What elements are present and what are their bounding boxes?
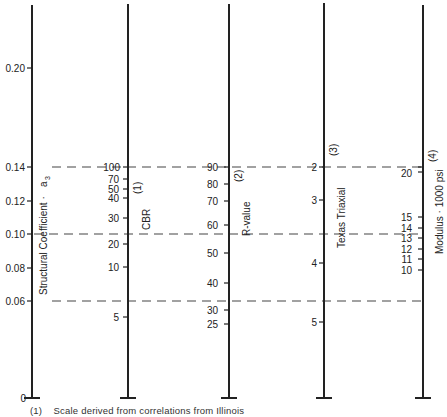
tick-label: 4 <box>311 258 317 269</box>
tick-label: 3 <box>311 195 317 206</box>
axis-note: (3) <box>328 144 339 156</box>
tick-label: 2 <box>311 162 317 173</box>
axis-r-value-ticks: 90 80 70 60 50 40 30 25 <box>207 162 219 330</box>
tick-label: 40 <box>108 193 120 204</box>
tick-label: 5 <box>113 312 119 323</box>
tick-label: 60 <box>207 220 219 231</box>
axis-title-symbol: a <box>38 181 49 187</box>
axis-r-value-title: (2) R-value <box>233 170 252 236</box>
tick-label: 10 <box>401 265 413 276</box>
tick-label: 0.10 <box>6 229 26 240</box>
axis-modulus-title: (4) Modulus · 1000 psi <box>427 150 445 254</box>
axis-structural-coefficient-ticks: 0.20 0.14 0.12 0.10 0.08 0.06 0 <box>6 63 27 404</box>
axis-texas-triaxial-title: (3) Texas Triaxial <box>328 144 347 248</box>
tick-label: 0 <box>20 393 26 404</box>
tick-label: 20 <box>108 239 120 250</box>
tick-label: 0.08 <box>6 263 26 274</box>
axis-title-subscript: 3 <box>44 176 51 180</box>
axis-modulus-ticks: 20 15 14 13 12 11 10 <box>401 168 413 276</box>
tick-label: 0.20 <box>6 63 26 74</box>
tick-label: 40 <box>207 278 219 289</box>
axis-cbr <box>120 4 136 398</box>
axis-title: Modulus · 1000 psi <box>434 170 445 255</box>
tick-label: 0.06 <box>6 296 26 307</box>
tick-label: 0.14 <box>6 162 26 173</box>
tick-label: 11 <box>402 254 413 265</box>
tick-label: 13 <box>401 233 413 244</box>
tick-label: 5 <box>311 317 317 328</box>
axis-note: (2) <box>233 170 244 182</box>
axis-title: CBR <box>141 209 152 230</box>
axis-note: (4) <box>427 150 438 162</box>
tick-label: 50 <box>207 248 219 259</box>
tick-label: 20 <box>401 168 413 179</box>
footnote-text: Scale derived from correlations from Ill… <box>54 405 245 416</box>
axis-modulus <box>415 5 431 398</box>
axis-cbr-ticks: 100 70 50 40 30 20 10 5 <box>103 162 120 323</box>
axis-texas-triaxial-ticks: 2 3 4 5 <box>311 162 317 328</box>
axis-title: R-value <box>241 201 252 236</box>
tick-label: 70 <box>207 196 219 207</box>
tick-label: 100 <box>103 162 120 173</box>
nomograph-chart: 0.20 0.14 0.12 0.10 0.08 0.06 0 Structur… <box>0 0 447 417</box>
tick-label: 90 <box>207 162 219 173</box>
axis-title: Texas Triaxial <box>336 187 347 248</box>
axis-note: (1) <box>132 182 143 194</box>
tick-label: 80 <box>207 179 219 190</box>
footnote-marker: (1) <box>30 405 42 416</box>
tick-label: 15 <box>401 212 413 223</box>
axis-r-value <box>221 4 237 398</box>
axis-texas-triaxial <box>316 3 332 398</box>
tick-label: 30 <box>207 305 219 316</box>
tick-label: 10 <box>108 262 120 273</box>
axis-title: Structural Coefficient · <box>38 196 49 295</box>
footnote: (1) Scale derived from correlations from… <box>30 405 244 416</box>
tick-label: 30 <box>108 213 120 224</box>
axis-cbr-title: (1) CBR <box>132 182 152 230</box>
axis-structural-coefficient-title: Structural Coefficient · a 3 <box>38 176 51 295</box>
tick-label: 0.12 <box>6 196 26 207</box>
tick-label: 25 <box>207 319 219 330</box>
